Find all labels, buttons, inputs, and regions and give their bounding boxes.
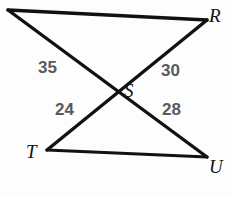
vertex-label-t: T (26, 142, 37, 161)
segment-topleft-to-u (8, 10, 207, 157)
vertex-label-s: S (124, 81, 134, 100)
figure-canvas (0, 0, 232, 197)
measure-upper-right: 30 (161, 62, 180, 79)
vertex-label-r: R (209, 6, 221, 25)
geometry-figure: R S T U 35 30 24 28 (0, 0, 232, 197)
measure-lower-left: 24 (55, 101, 74, 118)
segment-bottom (47, 150, 207, 157)
segment-top (8, 10, 207, 20)
vertex-label-u: U (209, 157, 223, 176)
measure-lower-right: 28 (162, 101, 181, 118)
measure-upper-left: 35 (38, 59, 57, 76)
